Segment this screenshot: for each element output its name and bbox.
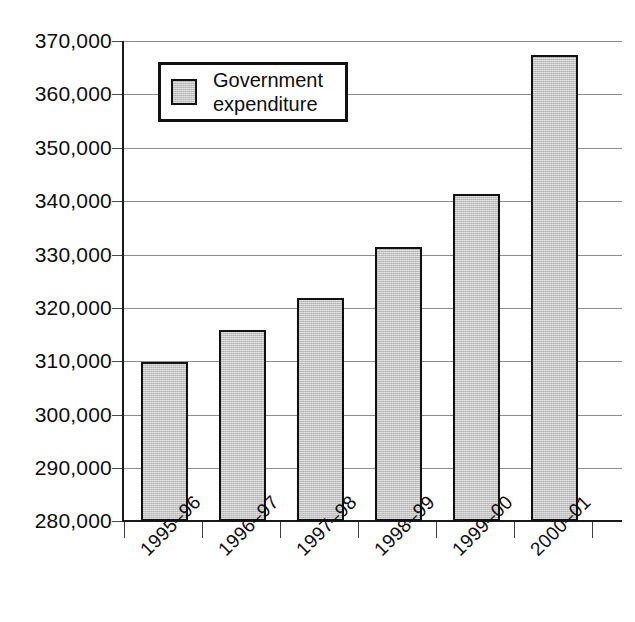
y-axis-tick-labels: 370,000 360,000 350,000 340,000 330,000 …: [0, 0, 112, 622]
bar: [375, 247, 422, 521]
y-axis-tick-mark: [112, 94, 122, 95]
y-axis-tick-mark: [112, 415, 122, 416]
y-axis-tick-label: 290,000: [8, 456, 112, 480]
bar-chart-figure: 370,000 360,000 350,000 340,000 330,000 …: [0, 0, 635, 622]
x-axis-tick-mark: [592, 522, 593, 538]
bar: [453, 194, 500, 521]
y-axis-tick-label: 320,000: [8, 296, 112, 320]
legend-label-line1: Government: [213, 68, 323, 92]
y-axis-tick-mark: [112, 148, 122, 149]
y-axis-tick-label: 360,000: [8, 82, 112, 106]
legend: Government expenditure: [158, 62, 348, 122]
y-axis-tick-mark: [112, 361, 122, 362]
y-axis-tick-label: 350,000: [8, 136, 112, 160]
y-axis-tick-mark: [112, 255, 122, 256]
x-axis-tick-mark: [280, 522, 281, 538]
x-axis-tick-mark: [358, 522, 359, 538]
legend-swatch-government-expenditure: [171, 79, 197, 105]
y-axis-tick-label: 340,000: [8, 189, 112, 213]
y-axis-tick-mark: [112, 308, 122, 309]
x-axis-tick-mark: [124, 522, 125, 538]
bar: [141, 362, 188, 521]
y-axis-tick-mark: [112, 521, 122, 522]
y-axis-tick-label: 310,000: [8, 349, 112, 373]
y-axis-tick-mark: [112, 41, 122, 42]
legend-label: Government expenditure: [213, 68, 323, 116]
x-axis-tick-mark: [202, 522, 203, 538]
bar: [531, 55, 578, 521]
y-axis-tick-label: 280,000: [8, 509, 112, 533]
bar: [297, 298, 344, 522]
y-axis-tick-label: 370,000: [8, 29, 112, 53]
y-axis-tick-mark: [112, 468, 122, 469]
x-axis-tick-mark: [514, 522, 515, 538]
gridline: [124, 41, 622, 42]
x-axis-tick-mark: [436, 522, 437, 538]
y-axis-tick-label: 330,000: [8, 243, 112, 267]
legend-label-line2: expenditure: [213, 92, 323, 116]
y-axis-tick-mark: [112, 201, 122, 202]
y-axis-tick-label: 300,000: [8, 403, 112, 427]
bar: [219, 330, 266, 521]
